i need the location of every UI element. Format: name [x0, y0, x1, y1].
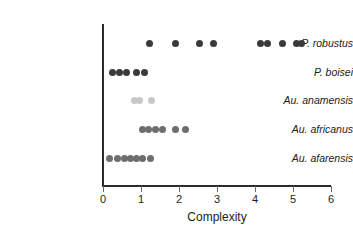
x-tick-label-1: 1 — [129, 192, 153, 206]
data-point — [152, 126, 159, 133]
data-point — [123, 69, 130, 76]
x-axis-title: Complexity — [103, 210, 331, 224]
data-point — [136, 97, 143, 104]
data-point — [196, 40, 203, 47]
data-point — [141, 69, 148, 76]
data-point — [146, 40, 153, 47]
x-tick-label-5: 5 — [281, 192, 305, 206]
data-point — [148, 97, 155, 104]
x-tick-label-6: 6 — [319, 192, 343, 206]
data-point — [139, 155, 146, 162]
x-tick-label-0: 0 — [91, 192, 115, 206]
data-point — [172, 126, 179, 133]
data-point — [298, 40, 305, 47]
x-tick-label-4: 4 — [243, 192, 267, 206]
x-tick-label-3: 3 — [205, 192, 229, 206]
data-point — [147, 155, 154, 162]
data-point — [159, 126, 166, 133]
data-point — [279, 40, 286, 47]
complexity-dot-plot: 0123456 P. robustusP. boiseiAu. anamensi… — [0, 0, 353, 233]
data-point — [172, 40, 179, 47]
data-point — [182, 126, 189, 133]
data-point — [210, 40, 217, 47]
x-tick-label-2: 2 — [167, 192, 191, 206]
data-point — [133, 69, 140, 76]
data-point — [264, 40, 271, 47]
data-point — [106, 155, 113, 162]
